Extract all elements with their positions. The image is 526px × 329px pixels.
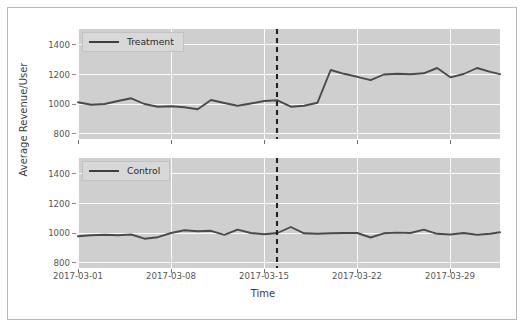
ytick-label-800-control: 800 <box>30 259 70 268</box>
control-legend: Control <box>82 161 170 181</box>
ytick-label-1200-control: 1200 <box>30 200 70 209</box>
xtick-mark-top-5 <box>450 140 451 144</box>
ytick-label-1000-control: 1000 <box>30 229 70 238</box>
xtick-mark-top-3 <box>264 140 265 144</box>
ytick-mark-1000-control <box>72 233 76 234</box>
treatment-legend-label: Treatment <box>127 37 174 46</box>
ytick-label-1000-treatment: 1000 <box>30 100 70 109</box>
treatment-legend: Treatment <box>82 32 184 52</box>
xtick-label-2017-03-15: 2017-03-15 <box>224 272 304 281</box>
ytick-mark-1000-treatment <box>72 104 76 105</box>
ytick-mark-1200-control <box>72 203 76 204</box>
xtick-mark-top-4 <box>357 140 358 144</box>
xtick-label-2017-03-01: 2017-03-01 <box>38 272 118 281</box>
xtick-label-2017-03-29: 2017-03-29 <box>410 272 490 281</box>
ytick-label-1400-treatment: 1400 <box>30 41 70 50</box>
ytick-mark-800-control <box>72 262 76 263</box>
ytick-mark-1400-treatment <box>72 44 76 45</box>
control-line <box>78 227 500 239</box>
control-legend-label: Control <box>127 166 160 175</box>
treatment-legend-swatch <box>89 41 119 43</box>
ytick-label-1400-control: 1400 <box>30 170 70 179</box>
ytick-mark-1400-control <box>72 173 76 174</box>
ytick-label-800-treatment: 800 <box>30 130 70 139</box>
chart-figure: Treatment Control 1400 1200 1000 800 140… <box>0 0 526 329</box>
xtick-label-2017-03-22: 2017-03-22 <box>317 272 397 281</box>
treatment-line <box>78 68 500 109</box>
xtick-mark-top-2 <box>171 140 172 144</box>
ytick-label-1200-treatment: 1200 <box>30 71 70 80</box>
x-axis-label: Time <box>0 288 526 299</box>
ytick-mark-1200-treatment <box>72 74 76 75</box>
xtick-label-2017-03-08: 2017-03-08 <box>131 272 211 281</box>
y-axis-label: Average Revenue/User <box>18 35 29 205</box>
control-legend-swatch <box>89 170 119 172</box>
xtick-mark-top-1 <box>78 140 79 144</box>
ytick-mark-800-treatment <box>72 133 76 134</box>
